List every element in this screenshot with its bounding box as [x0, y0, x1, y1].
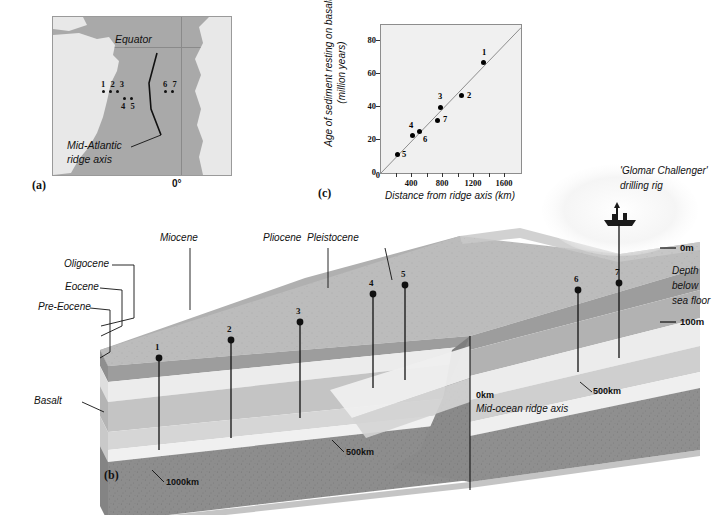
- distance-label-500km-left: 500km: [346, 447, 374, 457]
- map-site-dot-3: [116, 90, 119, 93]
- label-oligocene: Oligocene: [64, 258, 109, 269]
- map-site-dot-6: [164, 90, 167, 93]
- depth-caption-line2: below: [672, 280, 698, 291]
- depth-label-0m: 0m: [680, 242, 694, 253]
- data-point-label-7: 7: [443, 114, 447, 124]
- map-site-dot-7: [171, 90, 174, 93]
- depth-label-100m: 100m: [680, 316, 704, 327]
- data-point-label-4: 4: [409, 120, 413, 130]
- well-number-5: 5: [401, 269, 406, 279]
- label-pliocene: Pliocene: [263, 232, 301, 243]
- map-site-dot-4: [123, 97, 126, 100]
- equator-label: Equator: [115, 33, 152, 45]
- map-site-dot-1: [102, 90, 105, 93]
- well-number-1: 1: [155, 342, 160, 352]
- ytick-label-80: 80: [354, 35, 376, 45]
- label-eocene: Eocene: [65, 281, 99, 292]
- label-drilling-rig-line1: 'Glomar Challenger': [620, 165, 708, 176]
- label-pleistocene: Pleistocene: [307, 232, 359, 243]
- well-number-2: 2: [227, 324, 232, 334]
- distance-label-500km-right: 500km: [593, 386, 621, 396]
- ytick-mark-60: [376, 73, 380, 74]
- label-basalt: Basalt: [34, 395, 62, 406]
- y-axis-label-line1: Age of sediment resting on basalt: [323, 0, 334, 147]
- map-site-label-group-west: 1 2 3: [101, 79, 126, 89]
- depth-caption-line1: Depth: [672, 265, 699, 276]
- map-site-dot-5: [130, 97, 133, 100]
- map-site-label-group-mid: 4 5: [121, 101, 136, 111]
- ytick-label-60: 60: [354, 68, 376, 78]
- block-diagram-graphic: [0, 150, 724, 515]
- well-number-7: 7: [615, 267, 620, 277]
- map-site-dot-2: [109, 90, 112, 93]
- label-mid-ocean-ridge-axis: Mid-ocean ridge axis: [476, 403, 568, 414]
- label-pre-eocene: Pre-Eocene: [38, 301, 91, 312]
- well-number-4: 4: [369, 278, 374, 288]
- ytick-mark-80: [376, 40, 380, 41]
- well-number-3: 3: [296, 306, 301, 316]
- distance-label-0km: 0km: [476, 390, 494, 400]
- y-axis-label-line2: (million years): [335, 41, 346, 103]
- ytick-mark-40: [376, 106, 380, 107]
- y-axis-label: Age of sediment resting on basalt (milli…: [323, 0, 348, 148]
- ytick-label-20: 20: [354, 134, 376, 144]
- depth-caption-line3: sea floor: [672, 295, 710, 306]
- label-miocene: Miocene: [160, 232, 198, 243]
- data-point-label-2: 2: [467, 90, 471, 100]
- ytick-mark-20: [376, 139, 380, 140]
- well-number-6: 6: [574, 274, 579, 284]
- data-point-3: [438, 105, 443, 110]
- data-point-label-3: 3: [438, 91, 442, 101]
- data-point-label-1: 1: [482, 47, 486, 57]
- label-drilling-rig-line2: drilling rig: [620, 180, 663, 191]
- panel-b-tag: (b): [104, 468, 119, 483]
- data-point-label-6: 6: [423, 134, 427, 144]
- distance-label-1000km: 1000km: [166, 477, 199, 487]
- panel-b-block-diagram: Miocene Pliocene Pleistocene Oligocene E…: [0, 150, 724, 515]
- map-site-label-group-east: 6 7: [163, 79, 178, 89]
- ytick-label-40: 40: [354, 101, 376, 111]
